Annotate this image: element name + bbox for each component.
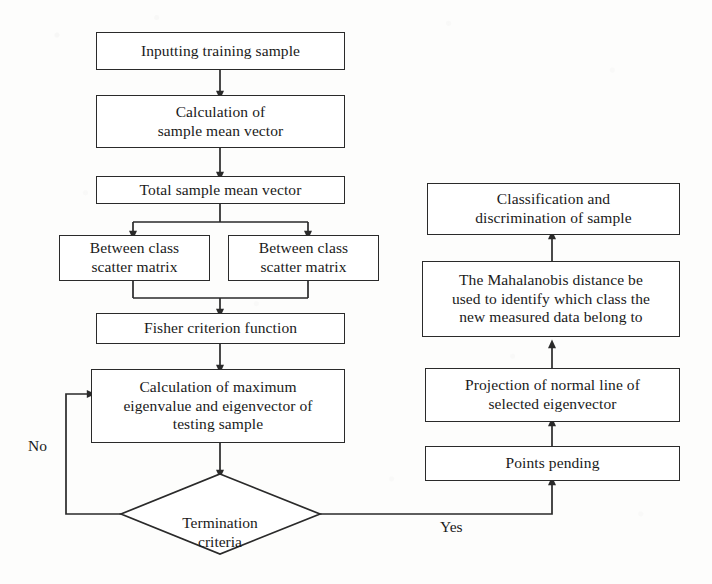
node-label: Points pending <box>430 454 675 473</box>
node-label: Fisher criterion function <box>101 319 340 338</box>
node-between-class-scatter-matrix-left: Between class scatter matrix <box>59 235 210 281</box>
node-label: Total sample mean vector <box>101 181 340 200</box>
node-between-class-scatter-matrix-right: Between class scatter matrix <box>228 235 379 281</box>
node-mahalanobis-distance: The Mahalanobis distance be used to iden… <box>422 261 680 337</box>
node-label: Projection of normal line of selected ei… <box>430 376 675 414</box>
node-termination-criteria-label: Termination criteria <box>160 495 280 552</box>
node-label: Termination criteria <box>182 514 258 550</box>
edge-label-yes: Yes <box>440 518 463 536</box>
edge-total-mean-split-bus <box>133 204 308 222</box>
edge-label-no: No <box>28 437 47 455</box>
edge-yes-branch <box>320 481 552 514</box>
edge-scatter-merge-bus <box>133 281 308 298</box>
edge-label-text: Yes <box>440 518 463 535</box>
node-label: Between class scatter matrix <box>64 239 205 277</box>
node-classification-discrimination: Classification and discrimination of sam… <box>427 183 680 235</box>
node-calculation-sample-mean-vector: Calculation of sample mean vector <box>96 95 345 148</box>
node-label: The Mahalanobis distance be used to iden… <box>427 271 675 328</box>
node-fisher-criterion-function: Fisher criterion function <box>96 313 345 344</box>
node-inputting-training-sample: Inputting training sample <box>96 32 345 70</box>
node-label: Inputting training sample <box>101 42 340 61</box>
node-calculation-maximum-eigenvalue: Calculation of maximum eigenvalue and ei… <box>91 369 345 443</box>
node-label: Classification and discrimination of sam… <box>432 190 675 228</box>
node-label: Calculation of maximum eigenvalue and ei… <box>96 378 340 435</box>
node-label: Between class scatter matrix <box>233 239 374 277</box>
node-label: Calculation of sample mean vector <box>101 103 340 141</box>
edge-label-text: No <box>28 437 47 454</box>
node-total-sample-mean-vector: Total sample mean vector <box>96 176 345 204</box>
node-projection-normal-line: Projection of normal line of selected ei… <box>425 368 680 422</box>
flowchart-canvas: Inputting training sample Calculation of… <box>0 0 712 584</box>
node-points-pending: Points pending <box>425 446 680 481</box>
